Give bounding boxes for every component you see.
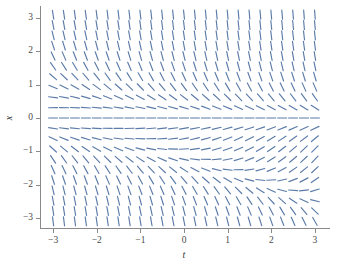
slope-dash — [51, 63, 56, 70]
slope-dash — [85, 21, 87, 30]
y-tick-label: −1 — [23, 147, 33, 157]
slope-dash — [194, 41, 196, 50]
slope-dash — [180, 167, 188, 172]
slope-dash — [158, 95, 166, 100]
slope-dash — [245, 169, 254, 170]
slope-dash — [313, 217, 317, 225]
slope-dash — [147, 107, 156, 109]
slope-dash — [63, 10, 64, 19]
slope-dash — [315, 21, 316, 30]
slope-dash — [202, 177, 209, 183]
slope-dash — [312, 156, 318, 163]
slope-dash — [237, 72, 240, 80]
y-tick-label: 2 — [28, 47, 33, 57]
slope-dash — [63, 21, 65, 30]
slope-dash — [202, 168, 210, 171]
slope-dash — [193, 73, 197, 81]
slope-dash — [249, 10, 250, 19]
slope-dash — [303, 41, 304, 50]
slope-dash — [117, 41, 119, 50]
slope-dash — [238, 52, 240, 61]
slope-dash — [202, 106, 210, 109]
slope-dash — [93, 84, 100, 89]
slope-dash — [74, 217, 75, 226]
slope-dash — [95, 62, 99, 70]
slope-dash — [150, 41, 152, 50]
slope-dash — [203, 187, 208, 195]
y-axis-label: x — [3, 116, 14, 120]
slope-dash — [169, 158, 178, 161]
slope-dash — [114, 138, 123, 139]
slope-dash — [249, 31, 250, 40]
slope-dash — [172, 41, 174, 50]
slope-dash — [161, 52, 163, 61]
slope-dash — [236, 197, 240, 205]
slope-dash — [183, 41, 185, 50]
slope-dash — [106, 176, 110, 184]
slope-dash — [52, 21, 54, 30]
slope-dash — [292, 62, 294, 71]
slope-dash — [290, 156, 297, 162]
slope-dash — [194, 207, 196, 216]
slope-dash — [212, 169, 221, 171]
slope-dash — [182, 196, 185, 204]
slope-dash — [194, 217, 196, 226]
slope-dash — [271, 31, 272, 40]
slope-dash — [85, 217, 86, 226]
slope-dash — [151, 21, 152, 30]
x-tick-mark — [228, 229, 229, 233]
slope-dash — [234, 127, 243, 130]
slope-dash — [103, 138, 112, 140]
slope-dash — [303, 72, 306, 81]
slope-dash — [85, 10, 86, 19]
slope-dash — [136, 107, 145, 109]
slope-dash — [212, 159, 221, 160]
slope-dash — [260, 41, 261, 50]
slope-dash — [161, 217, 163, 226]
slope-dash — [312, 146, 318, 152]
slope-dash — [71, 85, 79, 89]
slope-dash — [238, 41, 239, 50]
slope-dash — [162, 21, 163, 30]
slope-dash — [267, 127, 275, 130]
slope-dash — [63, 207, 64, 216]
slope-dash — [260, 21, 261, 30]
slope-dash — [290, 146, 297, 152]
slope-dash — [158, 149, 167, 150]
slope-dash — [49, 128, 58, 129]
y-tick-label: 1 — [28, 80, 33, 90]
slope-dash — [203, 83, 208, 91]
slope-dash — [94, 156, 100, 163]
slope-dash — [281, 52, 283, 61]
slope-dash — [194, 62, 197, 71]
slope-dash — [96, 41, 98, 50]
slope-dash — [140, 31, 142, 40]
slope-dash — [180, 106, 189, 109]
slope-dash — [161, 196, 164, 205]
slope-dash — [136, 128, 145, 129]
slope-dash — [106, 62, 110, 70]
slope-dash — [193, 186, 197, 194]
slope-dash — [184, 10, 185, 19]
slope-dash — [311, 200, 320, 202]
slope-dash — [227, 21, 228, 30]
slope-dash — [300, 190, 309, 191]
slope-dash — [183, 52, 185, 61]
slope-dash — [83, 156, 89, 163]
slope-dash — [291, 83, 295, 91]
slope-dash — [193, 196, 196, 204]
slope-dash — [256, 157, 264, 161]
slope-dash — [304, 10, 305, 19]
slope-dash — [84, 176, 87, 184]
slope-dash — [311, 189, 320, 192]
slope-dash — [106, 186, 109, 195]
slope-dash — [81, 96, 90, 98]
slope-dash — [312, 94, 317, 101]
slope-dash — [191, 106, 200, 109]
slope-dash — [190, 148, 199, 149]
slope-dash — [260, 10, 261, 19]
slope-dash — [104, 84, 111, 90]
slope-dash — [256, 106, 264, 110]
slope-dash — [96, 10, 97, 19]
slope-dash — [234, 147, 242, 151]
